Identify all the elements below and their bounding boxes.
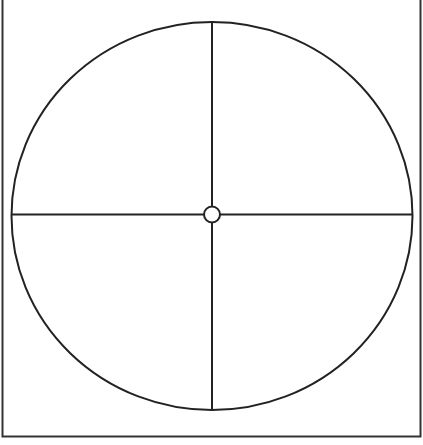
center-point: [204, 207, 220, 223]
quadrant-diagram: [0, 0, 423, 445]
